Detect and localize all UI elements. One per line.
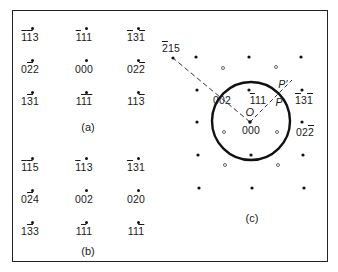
label-131: 131 (295, 95, 313, 106)
label-000: 000 (242, 125, 260, 136)
label-215: 215 (162, 43, 180, 54)
label-111: 111 (250, 95, 267, 106)
point-p-prime-label: P′ (278, 79, 287, 90)
zero-layer-spots (171, 55, 305, 189)
origin-label-o: O (246, 107, 255, 118)
point-p-label: P (275, 97, 282, 108)
panel-c-caption: (c) (246, 212, 259, 224)
dashed-line-to-215 (173, 58, 250, 122)
label-002: 002 (213, 95, 231, 106)
label-022: 022 (296, 127, 314, 138)
panel-c-construction (0, 0, 338, 272)
